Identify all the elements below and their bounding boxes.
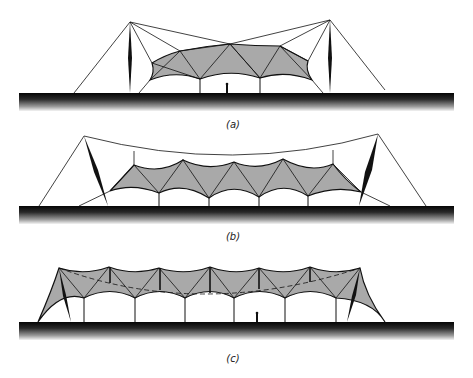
posts-b	[159, 193, 308, 206]
person-figure-a	[226, 83, 229, 93]
posts-a	[200, 78, 260, 93]
person-figure-c	[256, 312, 259, 322]
panel-label-c: (c)	[213, 353, 253, 364]
membrane-b	[110, 159, 361, 198]
panel-label-b: (b)	[213, 231, 253, 242]
panel-a	[19, 20, 454, 111]
panel-c	[19, 267, 454, 340]
panel-label-a: (a)	[213, 119, 253, 130]
ground-c	[19, 322, 454, 340]
membrane-a	[150, 44, 312, 80]
posts-c	[84, 298, 336, 322]
panel-b	[19, 134, 454, 224]
tensile-structures-diagram	[0, 0, 473, 378]
ground-a	[19, 93, 454, 111]
ground-b	[19, 206, 454, 224]
membrane-c	[38, 267, 385, 322]
